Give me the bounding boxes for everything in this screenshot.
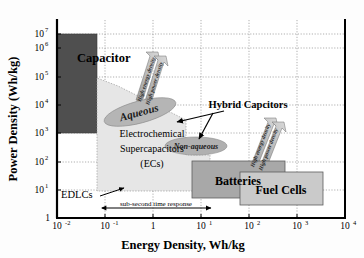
x-tick-exp-4: 2 bbox=[257, 219, 260, 226]
y-tick-exp-6: 6 bbox=[45, 40, 49, 47]
y-tick-label-0: 1 bbox=[45, 213, 50, 223]
y-tick-exp-5: 5 bbox=[45, 69, 48, 76]
x-axis-title: Energy Density, Wh/kg bbox=[121, 238, 245, 252]
y-tick-label-7: 10 bbox=[35, 29, 45, 39]
y-axis-title: Power Density (Wh/kg) bbox=[6, 57, 20, 182]
y-tick-exp-4: 4 bbox=[45, 97, 49, 104]
y-tick-label-2: 10 bbox=[35, 157, 45, 167]
y-tick-labels: 1 10 1 10 2 10 3 10 4 10 5 10 6 10 7 bbox=[35, 26, 51, 223]
y-tick-exp-2: 2 bbox=[45, 154, 48, 161]
x-tick-exp-1: -1 bbox=[113, 219, 118, 226]
x-tick-label-0: 10 bbox=[52, 221, 62, 231]
region-label-capacitor: Capacitor bbox=[77, 51, 131, 65]
x-tick-label-6: 10 bbox=[340, 221, 350, 231]
ec-label-line-3: (ECs) bbox=[140, 158, 163, 170]
region-label-batteries: Batteries bbox=[215, 174, 261, 188]
annotation-hybrid-capacitors: Hybrid Capcitors bbox=[208, 99, 287, 110]
x-tick-label-4: 10 bbox=[244, 221, 254, 231]
ragone-plot-figure: 1 10 1 10 2 10 3 10 4 10 5 10 6 10 7 10 … bbox=[0, 0, 364, 258]
y-tick-label-1: 10 bbox=[35, 185, 45, 195]
x-tick-label-3: 10 bbox=[196, 221, 206, 231]
y-tick-label-3: 10 bbox=[35, 128, 45, 138]
y-tick-label-6: 10 bbox=[35, 43, 45, 53]
y-tick-exp-3: 3 bbox=[45, 125, 48, 132]
x-tick-label-1: 10 bbox=[100, 221, 110, 231]
x-tick-exp-3: 1 bbox=[209, 219, 212, 226]
x-tick-labels: 10 -2 10 -1 1 10 1 10 2 10 3 10 4 bbox=[52, 219, 357, 231]
ragone-plot-svg: 1 10 1 10 2 10 3 10 4 10 5 10 6 10 7 10 … bbox=[0, 0, 364, 258]
y-tick-exp-7: 7 bbox=[45, 26, 49, 33]
ec-label-line-1: Electrochemical bbox=[120, 128, 185, 139]
x-tick-label-5: 10 bbox=[292, 221, 302, 231]
x-tick-exp-5: 3 bbox=[305, 219, 308, 226]
x-tick-exp-6: 4 bbox=[353, 219, 357, 226]
annotation-edlcs: EDLCs bbox=[61, 189, 93, 200]
y-tick-label-4: 10 bbox=[35, 100, 45, 110]
y-tick-label-5: 10 bbox=[35, 72, 45, 82]
region-label-fuel-cells: Fuel Cells bbox=[256, 183, 307, 197]
ellipse-label-non-aqueous: Non-aqueous bbox=[173, 142, 218, 151]
y-tick-exp-1: 1 bbox=[45, 182, 48, 189]
x-tick-label-2: 1 bbox=[151, 221, 156, 231]
annotation-sub-second-time-response: sub-second time response bbox=[120, 200, 192, 208]
x-tick-exp-0: -2 bbox=[65, 219, 70, 226]
region-capacitor bbox=[57, 34, 97, 133]
